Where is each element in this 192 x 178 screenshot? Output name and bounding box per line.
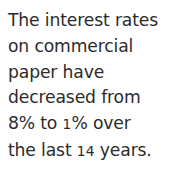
statement-line-6: the last 14 years. [8,138,188,165]
period-years-figure: 14 [77,143,95,159]
line-5-after: % over [71,113,130,133]
statement-text-block: The interest rates on commercial paper h… [0,0,192,178]
line-5-before: 8% to [8,113,63,133]
statement-line-2: on commercial [8,34,188,60]
statement-line-5: 8% to 1% over [8,111,188,138]
statement-line-1: The interest rates [8,8,188,34]
line-6-after: years. [95,140,152,160]
statement-line-4: decreased from [8,85,188,111]
statement-line-3: paper have [8,60,188,86]
line-6-before: the last [8,140,77,160]
